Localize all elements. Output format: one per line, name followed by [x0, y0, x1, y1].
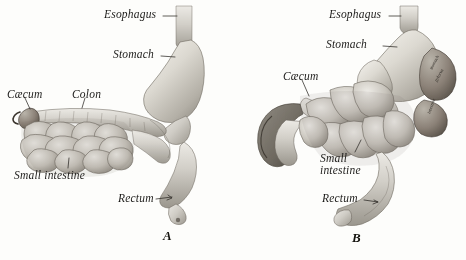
anatomical-figure-plate: stomach pylorus intestine [0, 0, 466, 260]
illustration-canvas: stomach pylorus intestine [0, 0, 466, 260]
